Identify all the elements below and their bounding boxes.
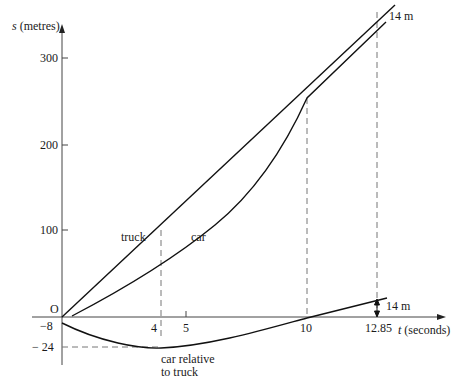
x-axis-arrow-icon (437, 314, 446, 320)
origin-label: O (50, 302, 59, 316)
reference-lines (62, 12, 377, 347)
y-tick-label-200: 200 (40, 138, 58, 152)
y-neg-label-8: −8 (40, 319, 53, 333)
truck-label: truck (121, 230, 146, 244)
y-ticks (62, 58, 68, 230)
x-tick-label-5: 5 (183, 321, 189, 335)
series-lines (62, 5, 395, 348)
car-curve (72, 22, 386, 316)
car-relative-curve (62, 298, 387, 348)
x-axis-title: t (seconds) (398, 323, 450, 337)
x-tick-label-10: 10 (300, 321, 312, 335)
car-label: car (191, 230, 206, 244)
chart: s (metres) 300 200 100 O −8 − 24 4 5 10 … (0, 0, 454, 390)
y-tick-label-300: 300 (40, 51, 58, 65)
relative-label-line1: car relative (161, 352, 215, 366)
y-axis-title: s (metres) (12, 19, 60, 33)
x-tick-label-12-85: 12.85 (365, 321, 392, 335)
axes (32, 30, 440, 365)
truck-line (62, 5, 395, 317)
relative-label-line2: to truck (161, 365, 198, 379)
y-neg-label-24: − 24 (32, 340, 54, 354)
gap-label-top: 14 m (389, 9, 414, 23)
y-tick-label-100: 100 (40, 223, 58, 237)
gap-arrows (375, 299, 380, 317)
x-tick-label-4: 4 (151, 321, 157, 335)
gap-label-bottom: 14 m (386, 299, 411, 313)
y-axis-arrow-icon (59, 24, 65, 33)
